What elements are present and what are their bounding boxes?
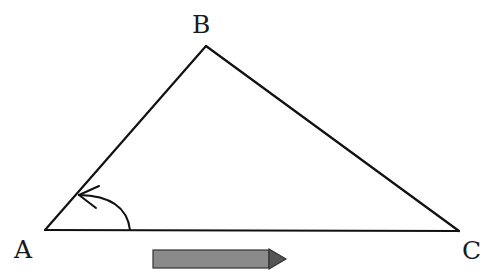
direction-arrow-icon [153, 249, 286, 269]
triangle-diagram: A B C [0, 0, 488, 279]
side-bc [206, 46, 459, 231]
vertex-label-c: C [462, 236, 481, 265]
vertex-label-a: A [13, 235, 33, 264]
vertex-label-b: B [192, 10, 210, 39]
angle-arrow-icon [79, 186, 130, 230]
triangle [45, 46, 459, 231]
side-ab [45, 46, 206, 230]
side-ac [45, 230, 459, 231]
